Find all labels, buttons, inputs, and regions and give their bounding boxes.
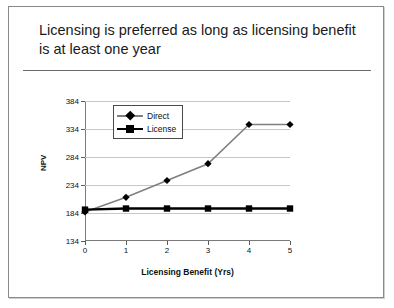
x-axis-tick — [208, 241, 209, 245]
y-axis-tick-label: 284 — [66, 153, 79, 162]
y-axis-tick-label: 134 — [66, 237, 79, 246]
x-axis-tick — [85, 241, 86, 245]
data-point-license — [164, 205, 170, 211]
data-point-direct — [286, 121, 293, 128]
x-axis-tick — [290, 241, 291, 245]
data-point-license — [82, 206, 88, 212]
x-axis-tick-label: 2 — [165, 246, 169, 255]
y-axis-tick-label: 184 — [66, 209, 79, 218]
y-axis-tick-label: 384 — [66, 97, 79, 106]
page-title: Licensing is preferred as long as licens… — [39, 21, 359, 59]
y-axis-tick-label: 234 — [66, 181, 79, 190]
data-point-license — [205, 205, 211, 211]
title-divider — [23, 70, 371, 71]
legend-label: Direct — [147, 111, 169, 121]
x-axis-tick — [126, 241, 127, 245]
legend-label: License — [147, 124, 176, 134]
data-point-direct — [163, 177, 170, 184]
x-axis-tick — [249, 241, 250, 245]
x-axis-tick-label: 4 — [247, 246, 251, 255]
npv-line-chart: NPV Licensing Benefit (Yrs) 134184234284… — [9, 79, 385, 297]
data-point-license — [123, 205, 129, 211]
y-axis-tick-label: 334 — [66, 125, 79, 134]
x-axis-tick-label: 0 — [83, 246, 87, 255]
x-axis-tick-label: 3 — [206, 246, 210, 255]
legend-marker-diamond-icon — [117, 110, 143, 121]
legend-item-license: License — [117, 122, 176, 135]
slide-canvas: Licensing is preferred as long as licens… — [8, 6, 384, 298]
data-point-license — [287, 205, 293, 211]
legend-marker-square-icon — [117, 123, 143, 134]
chart-legend: DirectLicense — [113, 105, 183, 139]
legend-item-direct: Direct — [117, 109, 176, 122]
x-axis-tick-label: 5 — [288, 246, 292, 255]
data-point-direct — [122, 194, 129, 201]
plot-area: 134184234284334384 012345 DirectLicense — [85, 101, 290, 241]
x-axis-title: Licensing Benefit (Yrs) — [85, 267, 290, 277]
x-axis-tick-label: 1 — [124, 246, 128, 255]
y-axis-title: NPV — [39, 155, 48, 171]
x-axis-tick — [167, 241, 168, 245]
data-point-license — [246, 205, 252, 211]
series-line-license — [85, 209, 290, 210]
